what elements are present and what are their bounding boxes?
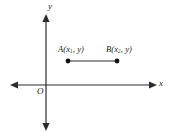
y-axis-label: y <box>48 2 52 11</box>
x-axis <box>10 81 157 88</box>
point-a-subscript: 1 <box>70 48 73 54</box>
y-axis-down-arrow-icon <box>42 123 49 131</box>
segment-ab <box>66 59 120 64</box>
y-axis <box>42 14 49 131</box>
point-b-marker <box>115 59 120 64</box>
point-a-marker <box>66 59 71 64</box>
point-b-label: B(x2, y) <box>106 45 132 54</box>
point-a-close-paren: ) <box>81 44 84 54</box>
x-axis-label: x <box>159 79 163 88</box>
point-b-subscript: 2 <box>118 48 121 54</box>
x-axis-left-arrow-icon <box>10 81 18 88</box>
point-a-label: A(x1, y) <box>58 45 84 54</box>
x-axis-right-arrow-icon <box>149 81 157 88</box>
coordinate-plane-figure: y x O A(x1, y) B(x2, y) <box>0 0 170 137</box>
point-b-close-paren: ) <box>129 44 132 54</box>
y-axis-up-arrow-icon <box>42 14 49 22</box>
origin-label: O <box>37 87 44 96</box>
figure-canvas <box>0 0 170 137</box>
